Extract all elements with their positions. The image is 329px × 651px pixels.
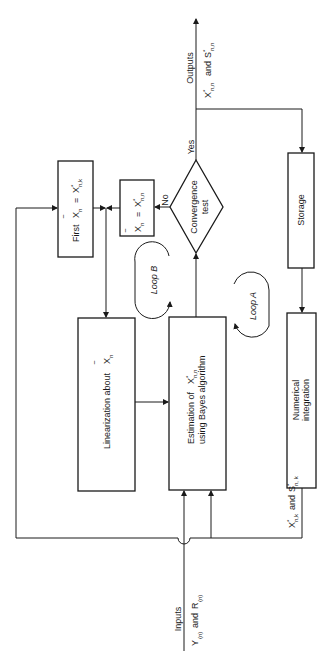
svg-text:*: * (70, 184, 76, 187)
outputs-values-label: X n,n * and S n,n * (202, 43, 215, 98)
outputs-label: Outputs (185, 52, 195, 84)
flowchart: Outputs X n,n * and S n,n * Yes No Conve… (0, 0, 329, 651)
loop-b-label: Loop B (149, 266, 159, 295)
svg-text:*: * (202, 89, 208, 92)
svg-text:n,k: n,k (77, 178, 83, 187)
svg-text:n: n (77, 209, 83, 212)
convergence-label-line2: test (200, 199, 210, 214)
svg-text:n: n (108, 355, 114, 358)
inputs-values-label: Y (n) and R (n) (190, 595, 203, 646)
svg-text:Y: Y (190, 640, 200, 646)
svg-text:*: * (202, 49, 208, 52)
svg-text:n, k: n, k (293, 475, 299, 486)
to-storage-line (196, 109, 302, 152)
feedback-label: X * n,k and S * n, k (286, 475, 299, 528)
linearization-label: Linearization about X ‾ n (94, 355, 114, 449)
no-label: No (160, 194, 170, 206)
svg-text:=: = (133, 212, 143, 217)
first-estimate-label: First X ‾ n = X * n,k (63, 178, 83, 242)
svg-text:=: = (71, 198, 81, 203)
yes-label: Yes (186, 139, 196, 154)
svg-text:n: n (139, 223, 145, 226)
svg-text:and: and (190, 613, 200, 628)
svg-text:n,n: n,n (139, 193, 145, 201)
integration-label-line1: Numerical (291, 380, 301, 421)
svg-text:*: * (286, 519, 292, 522)
integration-label-line2: integration (301, 379, 311, 421)
svg-text:Linearization about: Linearization about (102, 372, 112, 449)
feedback-line (16, 208, 302, 544)
inputs-label: Inputs (173, 606, 183, 631)
storage-label: Storage (296, 194, 306, 226)
loop-a-label: Loop A (248, 292, 258, 320)
svg-text:(n): (n) (197, 632, 203, 639)
svg-text:and: and (203, 61, 213, 76)
svg-text:*: * (132, 198, 138, 201)
svg-text:using Bayes algorithm: using Bayes algorithm (197, 355, 207, 444)
svg-text:(n): (n) (197, 595, 203, 602)
svg-text:n,n: n,n (209, 83, 215, 91)
svg-text:and: and (287, 495, 297, 510)
svg-text:n,n: n,n (209, 43, 215, 51)
estimation-label: Estimation of X * n,n using Bayes algori… (185, 355, 207, 444)
svg-text:*: * (185, 375, 191, 378)
svg-text:Estimation of: Estimation of (186, 391, 196, 444)
svg-text:R: R (190, 602, 200, 609)
svg-text:n,k: n,k (293, 513, 299, 522)
svg-text:First: First (71, 224, 81, 242)
convergence-label-line1: Convergence (189, 180, 199, 234)
update-estimate-label: X ‾ n = X * n,n (125, 193, 145, 233)
